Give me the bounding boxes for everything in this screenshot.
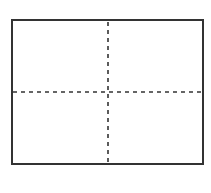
quadrant-diagram [0, 0, 211, 193]
diagram-canvas [0, 0, 211, 193]
